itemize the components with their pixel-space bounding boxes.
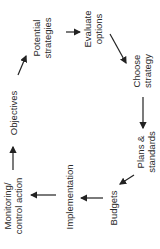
evaluate-options-line2: options xyxy=(93,11,104,48)
potential-strategies-line1: Potential xyxy=(31,17,42,58)
choose-strategy-line1: Choose xyxy=(131,54,142,88)
evaluate-options-line1: Evaluate xyxy=(82,11,93,48)
arrow-evaluate-to-choose xyxy=(110,34,126,63)
node-evaluate-options: Evaluate options xyxy=(82,11,104,48)
arrows-layer xyxy=(0,0,160,249)
arrow-objectives-to-potential xyxy=(18,56,26,75)
node-monitoring: Monitoring/ control action xyxy=(2,178,24,235)
objectives-label: Objectives xyxy=(8,91,19,135)
plans-standards-line1: Plans & xyxy=(135,131,146,173)
node-objectives: Objectives xyxy=(8,91,19,135)
node-budgets: Budgets xyxy=(108,191,119,226)
monitoring-line2: control action xyxy=(13,178,24,235)
node-implementation: Implementation xyxy=(64,165,75,230)
node-potential-strategies: Potential strategies xyxy=(31,17,53,58)
plans-standards-line2: standards xyxy=(146,131,157,173)
potential-strategies-line2: strategies xyxy=(42,17,53,58)
choose-strategy-line2: strategy xyxy=(142,54,153,88)
monitoring-line1: Monitoring/ xyxy=(2,178,13,235)
arrow-plans-to-budgets xyxy=(120,175,134,184)
node-choose-strategy: Choose strategy xyxy=(131,54,153,88)
implementation-label: Implementation xyxy=(64,165,75,230)
node-plans-standards: Plans & standards xyxy=(135,131,157,173)
budgets-label: Budgets xyxy=(108,191,119,226)
